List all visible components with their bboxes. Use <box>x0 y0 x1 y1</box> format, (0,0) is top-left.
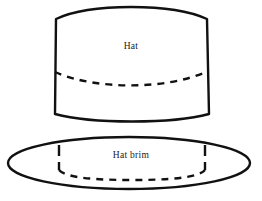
hat-brim-label: Hat brim <box>0 150 262 160</box>
hat-label: Hat <box>0 41 262 51</box>
hat-brim-outline <box>8 137 250 189</box>
hat-crown-group <box>55 7 209 122</box>
hat-pattern-illustration <box>0 0 262 201</box>
diagram-canvas: Hat Hat brim <box>0 0 262 201</box>
hat-crown-outline <box>55 7 209 122</box>
hat-brim-group <box>8 137 250 189</box>
